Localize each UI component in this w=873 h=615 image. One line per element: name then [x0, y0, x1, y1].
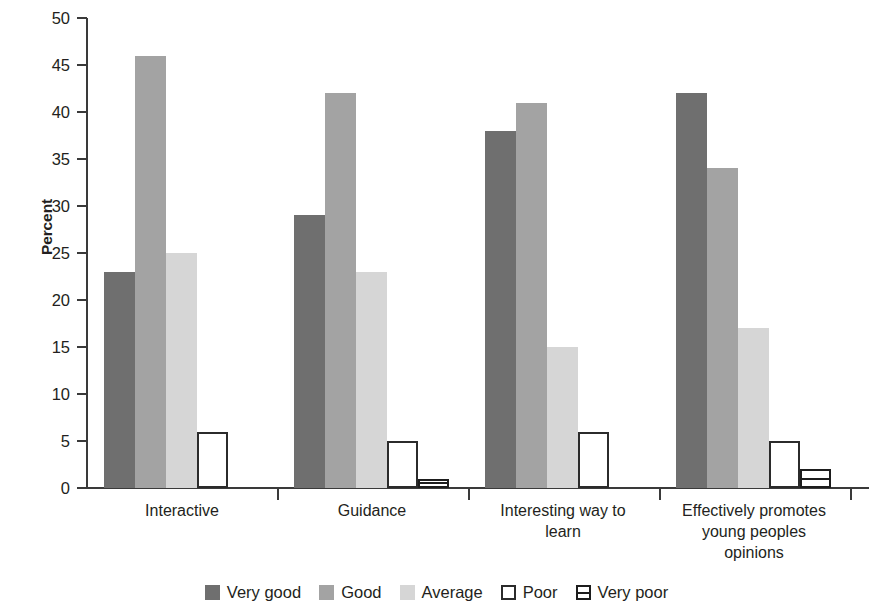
- legend-item-label: Poor: [523, 583, 558, 602]
- x-tick-mark: [468, 489, 470, 500]
- bar: [104, 272, 135, 488]
- x-axis-category-label-line: learn: [453, 521, 673, 542]
- bar: [197, 432, 228, 488]
- bar: [676, 93, 707, 488]
- y-tick-label: 15: [12, 339, 70, 356]
- bar: [800, 469, 831, 488]
- legend-item[interactable]: Very poor: [576, 583, 669, 602]
- x-tick-mark: [850, 489, 852, 500]
- y-tick-label: 35: [12, 151, 70, 168]
- bar: [387, 441, 418, 488]
- legend-swatch-very-poor: [576, 585, 591, 600]
- y-tick-label: 25: [12, 245, 70, 262]
- bar-group: [485, 18, 640, 488]
- legend-item[interactable]: Good: [319, 583, 381, 602]
- bar-group: [104, 18, 259, 488]
- x-axis-category-label: Interactive: [72, 500, 292, 521]
- bar-chart: Percent 50454035302520151050 Interactive…: [0, 0, 873, 615]
- bar: [166, 253, 197, 488]
- bar: [547, 347, 578, 488]
- bar-group: [294, 18, 449, 488]
- bar: [485, 131, 516, 488]
- x-axis-category-label: Effectively promotesyoung peoplesopinion…: [644, 500, 864, 563]
- y-axis-line: [86, 18, 88, 489]
- bar: [356, 272, 387, 488]
- legend-swatch-very-good: [205, 585, 220, 600]
- legend-item[interactable]: Very good: [205, 583, 301, 602]
- x-axis-category-label-line: Guidance: [262, 500, 482, 521]
- bar: [769, 441, 800, 488]
- chart-legend: Very goodGoodAveragePoorVery poor: [0, 583, 873, 602]
- x-axis-category-label-line: Interesting way to: [453, 500, 673, 521]
- y-tick-label: 40: [12, 104, 70, 121]
- legend-item-label: Good: [341, 583, 381, 602]
- legend-item-label: Very poor: [598, 583, 669, 602]
- legend-item-label: Very good: [227, 583, 301, 602]
- x-tick-mark: [277, 489, 279, 500]
- y-tick-label: 0: [12, 480, 70, 497]
- x-axis-category-label-line: Effectively promotes: [644, 500, 864, 521]
- y-tick-label: 20: [12, 292, 70, 309]
- legend-item-label: Average: [422, 583, 483, 602]
- legend-item[interactable]: Poor: [501, 583, 558, 602]
- x-axis-category-label: Interesting way tolearn: [453, 500, 673, 542]
- legend-swatch-average: [400, 585, 415, 600]
- legend-item[interactable]: Average: [400, 583, 483, 602]
- bar: [418, 479, 449, 488]
- bar: [135, 56, 166, 488]
- bar: [707, 168, 738, 488]
- bar: [738, 328, 769, 488]
- x-axis-category-label-line: opinions: [644, 542, 864, 563]
- bar: [294, 215, 325, 488]
- y-tick-label: 10: [12, 386, 70, 403]
- bar-group: [676, 18, 831, 488]
- bar: [516, 103, 547, 488]
- x-tick-mark: [659, 489, 661, 500]
- x-axis-category-label-line: young peoples: [644, 521, 864, 542]
- bar: [325, 93, 356, 488]
- y-tick-label: 45: [12, 57, 70, 74]
- bar: [578, 432, 609, 488]
- x-axis-category-label: Guidance: [262, 500, 482, 521]
- y-tick-label: 5: [12, 433, 70, 450]
- y-tick-label: 30: [12, 198, 70, 215]
- legend-swatch-poor: [501, 585, 516, 600]
- y-tick-label: 50: [12, 10, 70, 27]
- legend-swatch-good: [319, 585, 334, 600]
- x-axis-category-label-line: Interactive: [72, 500, 292, 521]
